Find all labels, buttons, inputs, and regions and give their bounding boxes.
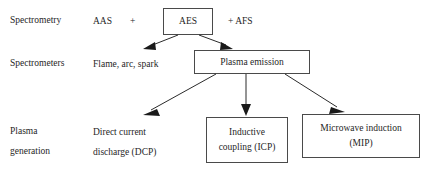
text-dcp-line2: discharge (DCP) bbox=[93, 145, 156, 159]
box-plasma-emission[interactable]: Plasma emission bbox=[194, 50, 310, 74]
edge-plasma-to-icp-icon bbox=[241, 74, 251, 116]
text-flame-arc-spark: Flame, arc, spark bbox=[93, 57, 158, 71]
text-aas: AAS bbox=[93, 14, 112, 28]
row-label-plasma-generation-line1: Plasma bbox=[10, 125, 37, 138]
box-icp-label-line1: Inductive bbox=[226, 125, 268, 140]
row-label-plasma-generation-line2: generation bbox=[10, 145, 50, 158]
box-aes-label: AES bbox=[176, 14, 200, 29]
box-icp-label-line2: coupling (ICP) bbox=[216, 140, 279, 155]
edge-aes-to-flame-icon bbox=[143, 35, 178, 50]
box-icp[interactable]: Inductive coupling (ICP) bbox=[206, 117, 288, 163]
row-label-spectrometers: Spectrometers bbox=[10, 57, 64, 70]
box-aes[interactable]: AES bbox=[163, 8, 213, 35]
box-mip-label-line1: Microwave induction bbox=[317, 121, 405, 136]
text-plus-left: + bbox=[130, 14, 135, 28]
row-label-spectrometry: Spectrometry bbox=[10, 14, 61, 27]
edge-plasma-to-mip-icon bbox=[285, 74, 345, 114]
box-mip[interactable]: Microwave induction (MIP) bbox=[302, 114, 420, 158]
text-plus-afs: + AFS bbox=[228, 14, 253, 28]
text-dcp-line1: Direct current bbox=[93, 125, 146, 139]
box-mip-label-line2: (MIP) bbox=[346, 136, 375, 151]
edge-plasma-to-dcp-icon bbox=[143, 74, 216, 116]
flowchart-diagram: Spectrometry AAS + AES + AFS Spectromete… bbox=[0, 0, 431, 172]
edge-aes-to-plasma-emission-icon bbox=[199, 35, 233, 50]
box-plasma-emission-label: Plasma emission bbox=[217, 55, 287, 70]
